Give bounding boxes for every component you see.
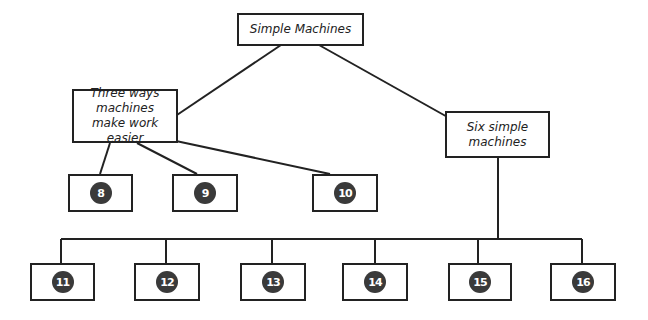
answer-box-14[interactable]: 14 bbox=[342, 263, 408, 301]
number-badge: 8 bbox=[90, 182, 112, 204]
answer-box-9[interactable]: 9 bbox=[172, 174, 238, 212]
answer-box-15[interactable]: 15 bbox=[448, 263, 512, 301]
number-badge: 16 bbox=[572, 271, 594, 293]
number-badge: 15 bbox=[469, 271, 491, 293]
right-branch-node: Six simple machines bbox=[445, 111, 550, 158]
number-badge: 11 bbox=[52, 271, 74, 293]
answer-box-16[interactable]: 16 bbox=[550, 263, 616, 301]
root-node: Simple Machines bbox=[237, 13, 364, 46]
answer-box-12[interactable]: 12 bbox=[134, 263, 200, 301]
answer-box-10[interactable]: 10 bbox=[312, 174, 378, 212]
answer-box-11[interactable]: 11 bbox=[30, 263, 95, 301]
root-label: Simple Machines bbox=[250, 22, 351, 37]
number-badge: 12 bbox=[156, 271, 178, 293]
left-branch-node: Three ways machines make work easier bbox=[72, 89, 178, 143]
answer-box-8[interactable]: 8 bbox=[68, 174, 133, 212]
number-badge: 14 bbox=[364, 271, 386, 293]
number-badge: 10 bbox=[334, 182, 356, 204]
right-branch-label: Six simple machines bbox=[463, 120, 532, 150]
number-badge: 9 bbox=[194, 182, 216, 204]
number-badge: 13 bbox=[262, 271, 284, 293]
answer-box-13[interactable]: 13 bbox=[240, 263, 306, 301]
left-branch-label: Three ways machines make work easier bbox=[78, 86, 172, 146]
